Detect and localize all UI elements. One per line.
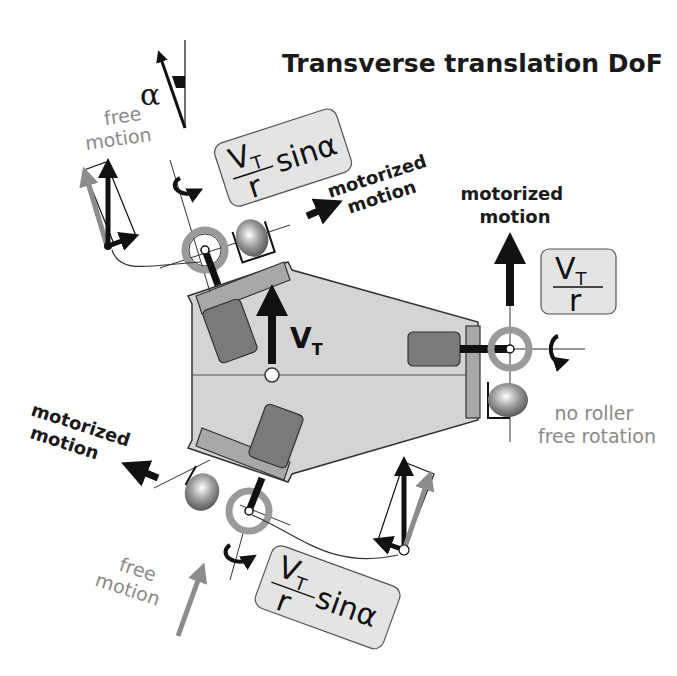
right-formula-box: VT r bbox=[541, 249, 616, 318]
motorized-motion-arrow bbox=[307, 206, 330, 216]
bottom-left-roller bbox=[180, 468, 225, 515]
diagram-canvas: Transverse translation DoF α VT bbox=[0, 0, 677, 676]
robot-body: VT bbox=[188, 262, 480, 482]
right-motor bbox=[408, 332, 460, 366]
right-wheel-assembly: motorized motion VT r no roller free rot… bbox=[460, 183, 656, 447]
right-mount-plate bbox=[466, 326, 480, 418]
svg-text:motorized motion: motorized motion bbox=[22, 399, 139, 474]
top-left-wheel-assembly: motorized motion VT r sinα free motion bbox=[81, 101, 442, 292]
no-roller-label: no roller bbox=[555, 402, 634, 424]
diagram-title: Transverse translation DoF bbox=[282, 49, 663, 78]
svg-text:r: r bbox=[569, 283, 582, 318]
svg-text:free motion: free motion bbox=[93, 547, 170, 609]
vt-label: V bbox=[290, 322, 312, 355]
svg-text:motorized motion: motorized motion bbox=[461, 183, 570, 227]
motorized-motion-arrow bbox=[134, 468, 158, 478]
svg-text:free motion: free motion bbox=[81, 101, 153, 154]
right-roller bbox=[488, 383, 528, 417]
svg-text:no roller free rotation: no roller free rotation bbox=[538, 402, 656, 447]
free-motion-arrow bbox=[178, 572, 201, 636]
center-point bbox=[265, 368, 279, 382]
bottom-left-formula-box: VT r sinα bbox=[251, 543, 402, 654]
